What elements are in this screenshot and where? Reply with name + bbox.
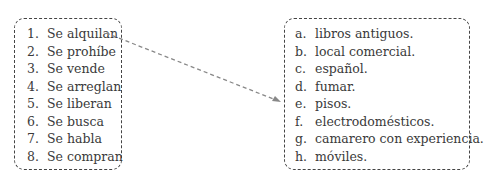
dashed-arrow-icon [0, 0, 478, 180]
